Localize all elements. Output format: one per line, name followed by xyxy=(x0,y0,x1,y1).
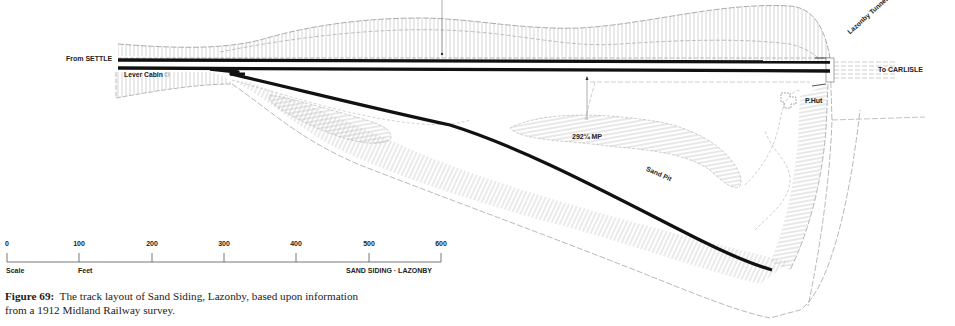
track-layout-plan xyxy=(0,0,955,326)
p-hut-label: P.Hut xyxy=(805,97,822,104)
scale-label: Scale xyxy=(6,267,24,274)
to-carlisle-label: To CARLISLE xyxy=(878,66,923,73)
scale-unit-label: Feet xyxy=(78,267,92,274)
scale-tick-400: 400 xyxy=(290,240,302,247)
lever-cabin-label: Lever Cabin xyxy=(124,71,163,78)
scale-tick-200: 200 xyxy=(146,240,158,247)
scale-title: SAND SIDING · LAZONBY xyxy=(346,267,432,274)
figure-number: Figure 69: xyxy=(5,290,54,302)
from-settle-label: From SETTLE xyxy=(66,55,112,62)
figure-caption: Figure 69: The track layout of Sand Sidi… xyxy=(5,290,365,317)
figure-caption-text: The track layout of Sand Siding, Lazonby… xyxy=(5,290,358,316)
scale-tick-300: 300 xyxy=(218,240,230,247)
p-hut-outline xyxy=(781,93,796,108)
north-embankment xyxy=(118,6,830,62)
scale-tick-100: 100 xyxy=(73,240,85,247)
scale-tick-500: 500 xyxy=(363,240,375,247)
east-embankment xyxy=(770,58,925,306)
scale-tick-600: 600 xyxy=(435,240,447,247)
milepost-label: 292¼ MP xyxy=(572,133,602,140)
scale-tick-0: 0 xyxy=(5,240,9,247)
